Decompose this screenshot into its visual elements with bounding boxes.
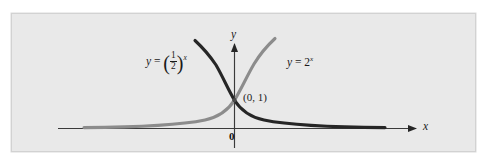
label-two-exponent: x bbox=[310, 55, 313, 63]
point-label-origin-one: (0, 1) bbox=[243, 92, 267, 103]
figure-root: y = (12)x y = 2x (0, 1) y x 0 bbox=[0, 0, 490, 167]
fraction-denominator: 2 bbox=[170, 62, 177, 72]
label-two-variable: y bbox=[287, 56, 292, 68]
label-two-equals: = bbox=[295, 56, 302, 68]
paren-open: ( bbox=[163, 52, 170, 74]
y-axis-label: y bbox=[231, 29, 236, 41]
fraction-one-half: 12 bbox=[170, 51, 177, 72]
curve-label-half: y = (12)x bbox=[146, 51, 187, 73]
x-axis-label: x bbox=[423, 121, 428, 133]
figure-panel bbox=[11, 13, 476, 152]
curve-label-two: y = 2x bbox=[287, 56, 313, 68]
origin-label: 0 bbox=[229, 131, 235, 142]
label-half-variable: y bbox=[146, 55, 151, 67]
label-half-equals: = bbox=[154, 55, 161, 67]
label-half-exponent: x bbox=[183, 53, 186, 62]
